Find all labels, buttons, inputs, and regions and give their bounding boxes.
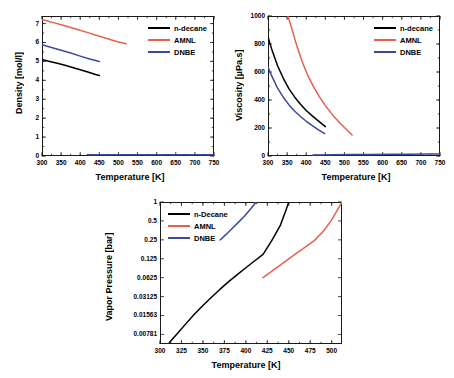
series-curve-AMNL — [263, 202, 342, 278]
viscosity-legend: n-decaneAMNLDNBE — [374, 22, 433, 58]
y-tick-label: 5 — [0, 57, 39, 64]
series-curve-n-decane — [42, 60, 99, 76]
series-curve-vapor-baseline — [313, 154, 440, 155]
y-tick-label: 200 — [226, 124, 265, 131]
legend-item-AMNL: AMNL — [374, 34, 433, 46]
y-tick-label: 0 — [0, 152, 39, 159]
y-tick-label: 7 — [0, 20, 39, 27]
legend-label: AMNL — [194, 222, 216, 231]
y-tick-label: 600 — [226, 68, 265, 75]
legend-swatch-DNBE — [168, 237, 190, 239]
y-tick-label: 0.0625 — [118, 274, 157, 281]
y-tick-label: 0.125 — [118, 255, 157, 262]
y-tick-label: 0.00781 — [118, 330, 157, 337]
density-legend: n-decaneAMNLDNBE — [148, 22, 207, 58]
y-tick-label: 800 — [226, 40, 265, 47]
y-tick-label: 1000 — [226, 12, 265, 19]
y-tick-label: 4 — [0, 76, 39, 83]
series-curve-DNBE — [42, 45, 99, 62]
legend-item-n-Decane: n-Decane — [168, 208, 228, 220]
y-tick-label: 6 — [0, 38, 39, 45]
y-tick-label: 2 — [0, 114, 39, 121]
y-tick-label: 0.01563 — [118, 311, 157, 318]
legend-item-n-decane: n-decane — [148, 22, 207, 34]
y-tick-label: 1 — [118, 198, 157, 205]
y-tick-label: 3 — [0, 95, 39, 102]
x-tick-label: 500 — [318, 347, 346, 354]
legend-item-DNBE: DNBE — [374, 46, 433, 58]
legend-item-DNBE: DNBE — [168, 232, 228, 244]
density-plot-panel: Density [mol/l] Temperature [K] 30035040… — [0, 0, 228, 190]
legend-label: AMNL — [400, 36, 422, 45]
series-curve-AMNL — [288, 16, 352, 135]
legend-label: DNBE — [194, 234, 215, 243]
y-tick-label: 0.5 — [118, 217, 157, 224]
y-tick-label: 400 — [226, 96, 265, 103]
y-tick-label: 0.25 — [118, 236, 157, 243]
legend-item-n-decane: n-decane — [374, 22, 433, 34]
legend-item-DNBE: DNBE — [148, 46, 207, 58]
legend-label: AMNL — [174, 36, 196, 45]
x-tick-label: 750 — [200, 159, 228, 166]
legend-label: n-decane — [400, 24, 433, 33]
y-tick-label: 0 — [226, 152, 265, 159]
vapor-pressure-legend: n-DecaneAMNLDNBE — [168, 208, 228, 244]
legend-label: n-decane — [174, 24, 207, 33]
legend-swatch-AMNL — [148, 39, 170, 41]
legend-swatch-DNBE — [374, 51, 396, 53]
legend-item-AMNL: AMNL — [168, 220, 228, 232]
y-tick-label: 1 — [0, 133, 39, 140]
legend-label: DNBE — [174, 48, 195, 57]
legend-swatch-n-Decane — [168, 213, 190, 215]
vapor-pressure-plot-panel: Vapor Pressure [bar] Temperature [K] 300… — [100, 188, 354, 378]
x-tick-label: 750 — [426, 159, 454, 166]
series-curve-DNBE — [268, 67, 325, 134]
series-curve-AMNL — [42, 19, 126, 43]
viscosity-plot-panel: Viscosity [µPa.s] Temperature [K] 300350… — [226, 0, 454, 190]
y-tick-label: 0.03125 — [118, 293, 157, 300]
legend-label: n-Decane — [194, 210, 228, 219]
legend-swatch-n-decane — [374, 27, 396, 29]
legend-swatch-AMNL — [168, 225, 190, 227]
legend-swatch-AMNL — [374, 39, 396, 41]
legend-label: DNBE — [400, 48, 421, 57]
legend-item-AMNL: AMNL — [148, 34, 207, 46]
legend-swatch-DNBE — [148, 51, 170, 53]
legend-swatch-n-decane — [148, 27, 170, 29]
